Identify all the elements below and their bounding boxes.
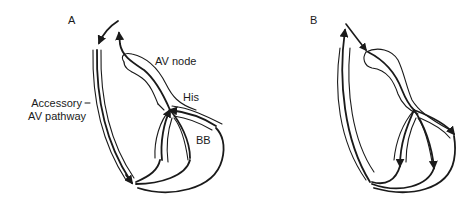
b-ventricle-loop-middle — [372, 168, 434, 188]
b-ventricle-loop-left — [372, 166, 400, 183]
b-accessory-line-inner — [349, 48, 374, 172]
b-ventricle-loop-outer — [374, 136, 455, 192]
b-posterior-inner — [418, 118, 432, 162]
b-av-node-antegrade-path — [368, 52, 414, 110]
diagram-canvas: A AV node His BB Accessory AV pathway — [0, 0, 474, 204]
antegrade-atrial-arrow — [346, 24, 366, 50]
b-left-bundle-thick — [400, 110, 414, 166]
panel-b-drawing — [0, 0, 474, 204]
